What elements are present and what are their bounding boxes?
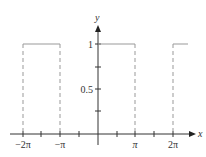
x-tick-label-2pi: 2π bbox=[168, 139, 178, 150]
y-axis-label: y bbox=[94, 12, 100, 23]
x-tick-label-neg2pi: −2π bbox=[15, 139, 31, 150]
square-wave-chart: x y −2π −π π 2π 0.5 1 bbox=[0, 0, 206, 157]
x-tick-label-negpi: −π bbox=[55, 139, 66, 150]
y-tick-label-one: 1 bbox=[88, 39, 93, 50]
x-tick-label-pi: π bbox=[132, 139, 138, 150]
x-axis-arrow-icon bbox=[189, 131, 196, 137]
y-axis-arrow-icon bbox=[95, 25, 101, 32]
x-axis-label: x bbox=[197, 128, 203, 139]
y-tick-label-half: 0.5 bbox=[81, 84, 94, 95]
